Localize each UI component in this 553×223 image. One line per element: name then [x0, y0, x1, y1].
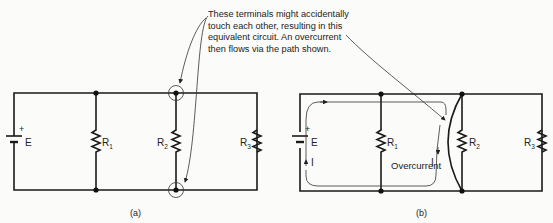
junction-dot — [378, 188, 383, 193]
battery-label: E — [25, 137, 32, 148]
pointer-arrow-bottom — [185, 16, 208, 182]
current-label: I — [311, 157, 314, 168]
junction-dot — [173, 187, 178, 192]
pointer-arrow-b — [346, 35, 445, 120]
resistor-label: R2 — [157, 137, 168, 150]
pointer-arrow-top — [180, 18, 206, 83]
short-circuit-arc — [448, 94, 462, 191]
junction-dot — [93, 90, 98, 95]
overcurrent-path — [306, 102, 446, 186]
resistor-r2-icon — [458, 94, 466, 191]
battery-polarity: + — [19, 124, 24, 134]
battery-label: E — [311, 137, 318, 148]
caption-a: (a) — [130, 208, 141, 218]
junction-dot — [93, 187, 98, 192]
resistor-label: R1 — [387, 137, 398, 150]
resistor-label: R2 — [469, 137, 480, 150]
junction-dot — [459, 91, 464, 96]
circuit-b: + E R1 R2 R3 I I Overcurrent (b) — [292, 91, 546, 218]
junction-dot — [459, 188, 464, 193]
resistor-label: R1 — [102, 137, 113, 150]
resistor-r2-icon — [172, 93, 180, 190]
junction-dot — [173, 90, 178, 95]
resistor-r1-icon — [377, 94, 385, 191]
junction-dot — [378, 91, 383, 96]
circuit-diagram: + E R1 R2 R3 (a) — [0, 0, 553, 223]
resistor-label: R3 — [524, 137, 535, 150]
caption-b: (b) — [416, 208, 427, 218]
battery-icon — [6, 132, 22, 148]
overcurrent-label: Overcurrent — [391, 160, 442, 171]
resistor-label: R3 — [240, 137, 251, 150]
resistor-r1-icon — [92, 93, 100, 190]
circuit-a: + E R1 R2 R3 (a) — [6, 86, 261, 219]
